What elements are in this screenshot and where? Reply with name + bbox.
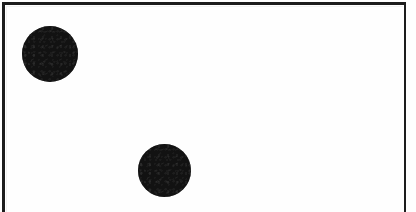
black-dot-lower-middle: [138, 144, 191, 197]
figure-canvas: [0, 0, 416, 212]
black-dot-upper-left: [22, 26, 78, 82]
